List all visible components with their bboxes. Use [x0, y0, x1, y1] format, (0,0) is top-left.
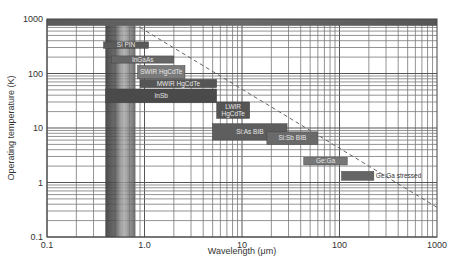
bar-insb: InSb — [106, 89, 217, 103]
bar-label: Si PIN — [117, 41, 136, 48]
bar-label: Ge:Ga stressed — [376, 172, 422, 179]
bar-label: LWIR — [225, 103, 241, 110]
bar-ingaas: InGaAs — [112, 56, 174, 63]
visible-spectrum-band — [106, 19, 135, 237]
y-axis-ticks: 0.11101001000 — [23, 14, 43, 242]
bar-label: HgCdTe — [221, 110, 245, 118]
bar-label: Si:As BIB — [236, 128, 263, 135]
bar-label: MWIR HgCdTe — [157, 80, 201, 88]
y-tick-label: 100 — [28, 69, 43, 79]
x-axis-label: Wavelength (μm) — [208, 246, 276, 256]
y-tick-label: 1000 — [23, 14, 43, 24]
detector-bars: Si PINInGaAsSWIR HgCdTeMWIR HgCdTeInSbLW… — [104, 41, 422, 180]
bar-swir-hgcdte: SWIR HgCdTe — [138, 66, 185, 79]
x-tick-label: 1000 — [427, 240, 447, 250]
y-axis-label: Operating temperature (K) — [6, 75, 16, 180]
top-temperature-band — [47, 19, 437, 26]
bar-si-sb-bib: Si:Sb BIB — [267, 132, 318, 145]
bar-lwir-hgcdte: LWIRHgCdTe — [217, 102, 250, 118]
bar-label: InSb — [155, 92, 169, 99]
bar-label: SWIR HgCdTe — [140, 68, 183, 76]
bar-label: Ge:Ga — [316, 157, 336, 164]
y-tick-label: 1 — [38, 178, 43, 188]
bar-mwir-hgcdte: MWIR HgCdTe — [140, 79, 217, 87]
bar-si-pin: Si PIN — [104, 41, 149, 48]
bar-rect — [342, 171, 374, 180]
bar-ge-ga-stressed: Ge:Ga stressed — [342, 171, 422, 180]
y-tick-label: 10 — [33, 123, 43, 133]
bar-label: InGaAs — [132, 56, 154, 63]
x-tick-label: 1.0 — [138, 240, 151, 250]
x-tick-label: 100 — [332, 240, 347, 250]
bar-label: Si:Sb BIB — [278, 134, 306, 141]
bar-ge-ga: Ge:Ga — [304, 157, 347, 165]
chart: Si PINInGaAsSWIR HgCdTeMWIR HgCdTeInSbLW… — [0, 0, 464, 274]
y-tick-label: 0.1 — [30, 232, 43, 242]
